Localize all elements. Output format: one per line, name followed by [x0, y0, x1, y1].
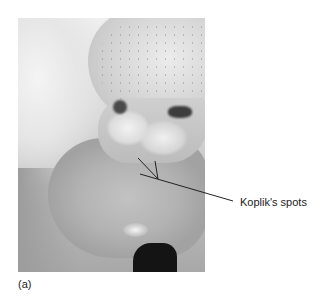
koplik-spots-label: Koplik's spots	[240, 196, 307, 208]
figure: Koplik's spots (a)	[0, 0, 326, 304]
mouth-opening	[133, 243, 177, 272]
tooth-shadow	[168, 106, 192, 118]
tooth-shadow	[113, 100, 127, 114]
clinical-photo	[18, 18, 205, 272]
panel-label: (a)	[18, 278, 31, 290]
mucosa-glare	[123, 223, 148, 237]
